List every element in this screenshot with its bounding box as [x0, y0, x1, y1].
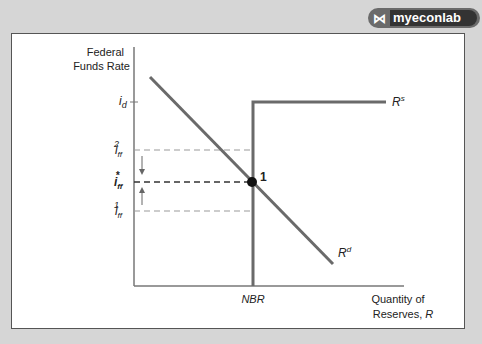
supply-curve-rs: [253, 102, 386, 286]
id-label: id: [119, 94, 128, 110]
iff1-label: iff1: [114, 200, 123, 220]
y-axis-label-2: Funds Rate: [73, 60, 130, 72]
rd-label: Rd: [338, 245, 352, 260]
equilibrium-point: [247, 177, 257, 187]
nbr-label: NBR: [241, 293, 264, 305]
demand-curve-rd: [150, 77, 333, 264]
x-axis-label-1: Quantity of: [371, 293, 425, 305]
y-axis-label-1: Federal: [87, 46, 124, 58]
iffstar-label: iff*: [114, 170, 124, 191]
x-axis-label-2: Reserves, R: [373, 308, 434, 320]
arrow-down-icon: [139, 169, 145, 175]
iff2-label: iff2: [113, 139, 123, 159]
rs-label: Rs: [392, 94, 405, 109]
point-1-label: 1: [260, 170, 267, 184]
arrow-up-icon: [139, 187, 145, 193]
reserves-market-chart: Federal Funds Rate id iff2 iff* iff1 Rs …: [0, 0, 482, 344]
